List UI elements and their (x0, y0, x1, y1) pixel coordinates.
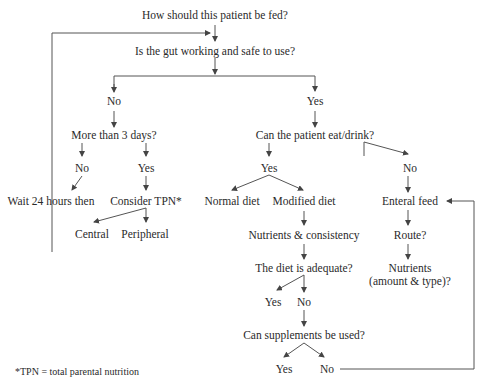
node-central: Central (75, 228, 109, 241)
node-gut-working: Is the gut working and safe to use? (135, 45, 295, 58)
node-eat-yes: Yes (261, 162, 278, 175)
flowchart: How should this patient be fed? Is the g… (0, 0, 483, 384)
node-days-yes: Yes (138, 162, 155, 175)
node-nutrients-consistency: Nutrients & consistency (248, 229, 359, 242)
arrow-no-wait (72, 176, 82, 190)
node-modified-diet: Modified diet (273, 195, 336, 208)
node-gut-no: No (107, 95, 121, 108)
node-supp-yes: Yes (276, 363, 293, 376)
node-wait-24-hours: Wait 24 hours then (8, 195, 95, 208)
arrow-yes-normal (232, 175, 269, 190)
arrow-supp-no (304, 343, 324, 357)
node-supplements: Can supplements be used? (243, 329, 365, 342)
node-gut-yes: Yes (307, 95, 324, 108)
node-adequate-yes: Yes (265, 296, 282, 309)
node-normal-diet: Normal diet (204, 195, 259, 208)
node-adequate-no: No (297, 296, 311, 309)
arrow-supp-yes (284, 343, 304, 357)
node-peripheral: Peripheral (121, 228, 168, 241)
node-consider-tpn: Consider TPN* (110, 195, 182, 208)
node-more-than-3-days: More than 3 days? (71, 129, 156, 142)
node-how-fed: How should this patient be fed? (142, 9, 288, 22)
arrow-eat-split (364, 142, 408, 156)
branch-line (114, 76, 315, 91)
arrow-yes-modified (269, 175, 303, 190)
node-can-eat-drink: Can the patient eat/drink? (256, 129, 374, 142)
node-nutrients-amount-type: (amount & type)? (369, 275, 451, 288)
arrow-tpn-central (94, 208, 146, 222)
node-nutrients: Nutrients (389, 262, 432, 275)
node-enteral-feed: Enteral feed (382, 195, 438, 208)
footnote: *TPN = total parental nutrition (15, 365, 139, 378)
arrow-wait-loop (52, 33, 210, 252)
node-days-no: No (75, 162, 89, 175)
arrow-adequate-yes (277, 275, 304, 290)
node-route: Route? (394, 229, 427, 242)
node-supp-no: No (320, 363, 334, 376)
node-eat-no: No (403, 162, 417, 175)
node-diet-adequate: The diet is adequate? (255, 262, 352, 275)
